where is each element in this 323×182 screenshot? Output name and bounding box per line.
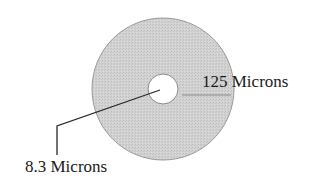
cladding-diameter-label: 125 Microns — [202, 73, 288, 90]
fiber-cross-section-diagram: 125 Microns 8.3 Microns — [0, 0, 323, 182]
core-circle — [148, 74, 178, 104]
diagram-canvas — [0, 0, 323, 182]
core-diameter-label: 8.3 Microns — [25, 158, 107, 175]
